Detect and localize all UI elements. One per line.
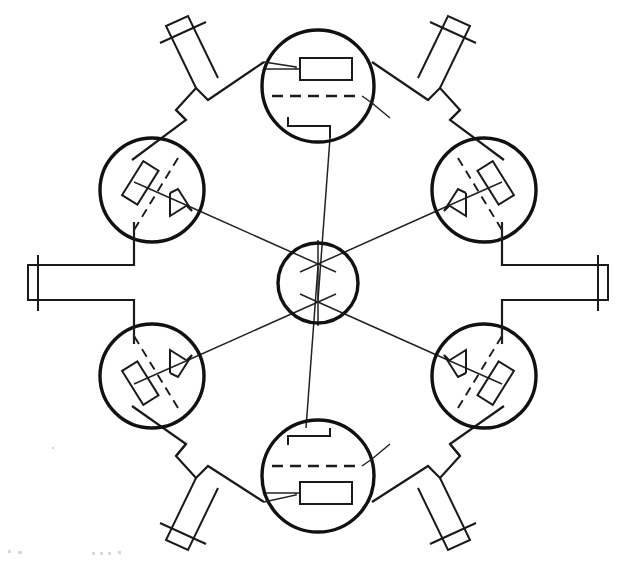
spoke-ext-ur [450,182,502,205]
nozzle-lower-right [418,444,476,550]
spoke-ext-ul [134,182,186,205]
nozzle-right [576,255,608,311]
vane-block-bottom [300,482,352,504]
vane-block-top [300,58,352,80]
spoke-ext-ll [134,361,186,384]
nozzle-upper-left [160,16,218,120]
chamber-bottom-inlet-line [264,493,296,502]
spoke-to-upper-left [186,205,336,272]
chamber-top-inlet-line [264,62,296,69]
chamber-bottom [262,420,390,532]
technical-drawing-canvas [0,0,625,562]
spoke-to-top [318,138,330,300]
port-seat-top [288,117,330,138]
spoke-to-lower-right [300,294,450,361]
nozzle-upper-right [418,16,476,120]
valve-assembly-drawing [0,0,625,562]
spoke-ext-lr [450,361,502,384]
nozzle-left [28,255,60,311]
chamber-top [262,30,390,142]
nozzle-lower-left [160,444,218,550]
port-seat-bottom [288,428,330,445]
spoke-to-bottom [306,266,318,428]
scan-artifacts [8,447,121,555]
